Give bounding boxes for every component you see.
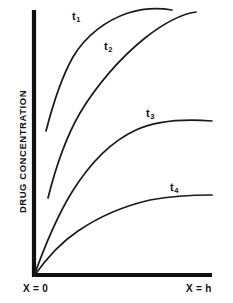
- curve-label-t2: t2: [104, 41, 112, 52]
- curve-label-t4: t4: [170, 182, 178, 193]
- x-axis-end-label: X = h: [186, 283, 212, 294]
- curve-label-t4-subscript: 4: [174, 186, 178, 195]
- drug-concentration-figure: t1 t2 t3 t4 DRUG CONCENTRATION X = 0 X =…: [0, 0, 233, 303]
- curve-label-t1: t1: [72, 11, 80, 22]
- plot-area: [0, 0, 233, 303]
- curve-label-t1-subscript: 1: [76, 15, 80, 24]
- y-axis-title: DRUG CONCENTRATION: [17, 72, 28, 232]
- curve-label-t3-subscript: 3: [150, 112, 154, 121]
- curve-label-t3: t3: [146, 108, 154, 119]
- curve-label-t2-subscript: 2: [108, 45, 112, 54]
- curve-t4: [34, 195, 212, 276]
- x-axis-start-label: X = 0: [23, 283, 48, 294]
- curve-t3: [34, 120, 212, 276]
- curve-t2: [48, 12, 196, 198]
